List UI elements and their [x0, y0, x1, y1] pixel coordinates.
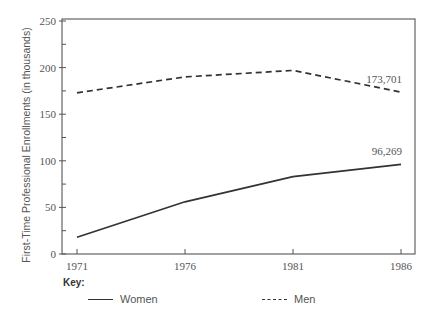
x-tick-label: 1971	[66, 260, 88, 272]
legend-item-women: Women	[88, 292, 158, 306]
y-tick-label: 0	[51, 248, 57, 260]
series-lines	[77, 70, 401, 237]
y-tick-label: 100	[40, 155, 57, 167]
x-tick-label: 1976	[174, 260, 197, 272]
end-value-label: 173,701	[366, 73, 402, 85]
line-chart: 050100150200250 1971197619811986 First-T…	[0, 0, 439, 315]
y-axis-title: First-Time Professional Enrollments (in …	[20, 27, 32, 262]
x-axis-ticks: 1971197619811986	[66, 249, 413, 272]
y-tick-label: 250	[40, 15, 57, 27]
solid-line-icon	[88, 299, 113, 300]
legend-title: Key:	[63, 277, 85, 288]
series-line-women	[77, 164, 401, 237]
series-line-men	[77, 70, 401, 92]
end-value-label: 96,269	[372, 145, 403, 157]
legend-item-men: Men	[262, 292, 315, 306]
plot-frame	[62, 19, 415, 254]
plot-border	[62, 19, 415, 254]
y-tick-label: 150	[40, 108, 57, 120]
x-tick-label: 1986	[390, 260, 413, 272]
legend-label: Women	[120, 293, 158, 305]
legend-label: Men	[294, 293, 315, 305]
x-tick-label: 1981	[282, 260, 304, 272]
dashed-line-icon	[262, 299, 287, 300]
y-tick-label: 50	[45, 201, 57, 213]
data-labels: 96,269173,701	[366, 73, 402, 157]
y-tick-label: 200	[40, 62, 57, 74]
